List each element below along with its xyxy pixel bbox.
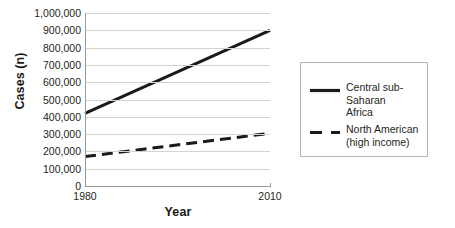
legend-label: Central sub-Saharan Africa <box>346 81 428 119</box>
y-axis-tick-label: 200,000 <box>20 146 81 156</box>
y-axis-tick-label: 300,000 <box>20 129 81 139</box>
x-axis-title: Year <box>85 205 271 219</box>
gridline <box>85 48 270 49</box>
x-axis-tick-mark <box>270 183 271 187</box>
legend-item-central-sub-saharan-africa: Central sub-Saharan Africa <box>310 81 428 119</box>
gridline <box>85 134 270 135</box>
legend-marker-dashed-line-icon <box>310 124 340 135</box>
series-line <box>85 30 270 113</box>
gridline <box>85 82 270 83</box>
x-axis-tick-label: 2010 <box>240 190 300 202</box>
legend-marker-solid-line-icon <box>310 82 340 93</box>
legend-label: North American (high income) <box>346 123 418 148</box>
gridline <box>85 100 270 101</box>
chart-figure: Cases (n) 1,000,000900,000800,000700,000… <box>0 0 455 228</box>
y-axis-tick-label: 100,000 <box>20 164 81 174</box>
y-axis-tick-label: 800,000 <box>20 43 81 53</box>
gridline <box>85 13 270 14</box>
plot-area <box>85 13 270 186</box>
y-axis-tick-label: 1,000,000 <box>20 8 81 18</box>
series-line <box>85 133 270 156</box>
x-axis-tick-mark <box>85 183 86 187</box>
y-axis-tick-label: 500,000 <box>20 95 81 105</box>
y-axis-tick-label: 700,000 <box>20 60 81 70</box>
gridline <box>85 169 270 170</box>
x-axis-line <box>85 186 271 187</box>
y-axis-tick-label: 900,000 <box>20 25 81 35</box>
y-axis-tick-label: 600,000 <box>20 77 81 87</box>
gridline <box>85 117 270 118</box>
gridline <box>85 65 270 66</box>
y-axis-line <box>85 13 86 187</box>
x-axis-tick-label: 1980 <box>55 190 115 202</box>
chart-legend: Central sub-Saharan Africa North America… <box>300 62 428 157</box>
y-axis-tick-label: 400,000 <box>20 112 81 122</box>
gridline <box>85 30 270 31</box>
legend-item-north-american-high-income: North American (high income) <box>310 123 428 148</box>
gridline <box>85 151 270 152</box>
